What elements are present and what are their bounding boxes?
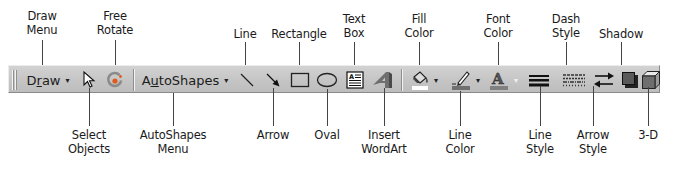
callout-fill-color: Fill Color <box>404 12 433 40</box>
callout-draw-menu: Draw Menu <box>27 9 58 37</box>
callout-line-style: Line Style <box>526 128 554 156</box>
callout-line <box>384 88 385 126</box>
autoshapes-menu-label: AutoShapes <box>142 73 220 88</box>
callout-dash-style: Dash Style <box>552 12 580 40</box>
line-button[interactable] <box>237 66 257 94</box>
callout-text: Menu <box>140 142 207 156</box>
font-color-button[interactable]: A <box>487 66 511 94</box>
callout-text: Objects <box>68 142 110 156</box>
text-box-button[interactable]: A <box>345 66 365 94</box>
callout-text: WordArt <box>361 142 406 156</box>
callout-text: Style <box>552 26 580 40</box>
callout-text: Shadow <box>599 27 643 41</box>
callout-line <box>327 89 328 126</box>
fill-color-dropdown[interactable]: ▾ <box>434 76 438 85</box>
shadow-icon <box>621 71 639 89</box>
svg-text:A: A <box>491 70 504 88</box>
callout-text: Oval <box>314 128 339 142</box>
callout-text: Style <box>577 142 609 156</box>
callout-line <box>648 87 649 126</box>
callout-line <box>89 88 90 126</box>
callout-line-tool: Line <box>233 27 256 41</box>
drawing-toolbar: Draw ▾ AutoShapes ▾ <box>8 65 660 93</box>
callout-autoshapes-menu: AutoShapes Menu <box>140 128 207 156</box>
free-rotate-icon <box>106 71 124 89</box>
autoshapes-menu-button[interactable]: AutoShapes ▾ <box>139 66 231 94</box>
dash-style-icon <box>562 72 586 88</box>
callout-free-rotate: Free Rotate <box>97 9 133 37</box>
callout-text: Select <box>68 128 110 142</box>
rectangle-icon <box>290 72 310 88</box>
callout-text: Rotate <box>97 23 133 37</box>
callout-line <box>460 91 461 126</box>
callout-text: Line <box>233 27 256 41</box>
toolbar-grip[interactable] <box>12 70 14 90</box>
toolbar-separator <box>401 69 403 91</box>
line-color-button[interactable] <box>449 66 473 94</box>
chevron-down-icon: ▾ <box>65 76 69 85</box>
draw-menu-label: Draw <box>27 73 61 88</box>
callout-arrow-style: Arrow Style <box>577 128 609 156</box>
line-icon <box>239 72 255 88</box>
3d-button[interactable] <box>640 66 662 94</box>
draw-menu-button[interactable]: Draw ▾ <box>23 66 73 94</box>
callout-text: Color <box>483 26 512 40</box>
callout-text: Arrow <box>257 128 289 142</box>
callout-3d: 3-D <box>638 128 658 142</box>
callout-text: Menu <box>27 23 58 37</box>
insert-wordart-icon <box>372 70 394 90</box>
callout-text: Text <box>343 12 365 26</box>
callout-text: Insert <box>361 128 406 142</box>
callout-text: Draw <box>27 9 58 23</box>
dash-style-button[interactable] <box>561 66 587 94</box>
insert-wordart-button[interactable] <box>371 66 395 94</box>
rectangle-button[interactable] <box>289 66 311 94</box>
callout-text: Line <box>526 128 554 142</box>
shadow-button[interactable] <box>619 66 641 94</box>
callout-line <box>540 86 541 126</box>
callout-text: Dash <box>552 12 580 26</box>
callout-insert-wordart: Insert WordArt <box>361 128 406 156</box>
callout-oval: Oval <box>314 128 339 142</box>
callout-rectangle: Rectangle <box>271 27 327 41</box>
arrow-icon <box>265 72 281 88</box>
callout-text: Fill <box>404 12 433 26</box>
callout-select-objects: Select Objects <box>68 128 110 156</box>
fill-color-button[interactable] <box>409 66 431 94</box>
callout-text: Line <box>445 128 474 142</box>
line-style-icon <box>528 72 550 88</box>
callout-text: Arrow <box>577 128 609 142</box>
line-color-icon <box>450 69 472 91</box>
callout-text: Free <box>97 9 133 23</box>
free-rotate-button[interactable] <box>105 66 125 94</box>
callout-line <box>273 88 274 126</box>
callout-text: Style <box>526 142 554 156</box>
callout-shadow: Shadow <box>599 27 643 41</box>
callout-text: Box <box>343 26 365 40</box>
select-objects-button[interactable] <box>81 66 99 94</box>
select-objects-icon <box>83 71 97 89</box>
callout-text-box: Text Box <box>343 12 365 40</box>
callout-text: Color <box>404 26 433 40</box>
oval-icon <box>316 72 338 88</box>
callout-text: Color <box>445 142 474 156</box>
callout-line <box>593 86 594 126</box>
line-color-dropdown[interactable]: ▾ <box>476 76 480 85</box>
toolbar-grip[interactable] <box>15 70 17 90</box>
callout-font-color: Font Color <box>483 12 512 40</box>
arrow-style-icon <box>593 71 615 89</box>
3d-icon <box>641 70 661 90</box>
callout-text: Rectangle <box>271 27 327 41</box>
chevron-down-icon: ▾ <box>224 76 228 85</box>
svg-text:A: A <box>349 73 354 81</box>
arrow-style-button[interactable] <box>592 66 616 94</box>
callout-line-color: Line Color <box>445 128 474 156</box>
callout-line <box>173 93 174 126</box>
callout-text: Font <box>483 12 512 26</box>
callout-text: 3-D <box>638 128 658 142</box>
font-color-dropdown[interactable]: ▾ <box>514 76 518 85</box>
text-box-icon: A <box>346 71 364 89</box>
fill-color-icon <box>410 69 430 91</box>
callout-text: AutoShapes <box>140 128 207 142</box>
line-style-button[interactable] <box>527 66 551 94</box>
